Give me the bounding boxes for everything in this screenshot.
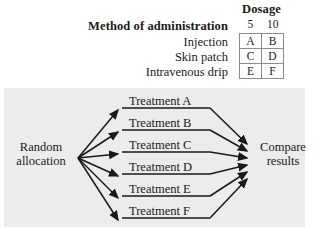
random-allocation-line1: Random xyxy=(4,140,78,154)
method-label-injection: Injection xyxy=(20,35,228,49)
compare-results-line1: Compare xyxy=(249,140,317,154)
treatment-label-e: Treatment E xyxy=(129,183,233,196)
method-factor-label: Method of administration xyxy=(20,19,228,34)
method-label-skin-patch: Skin patch xyxy=(20,50,228,64)
table-row: C D xyxy=(240,49,284,64)
treatment-label-d: Treatment D xyxy=(129,161,233,174)
treatment-label-b: Treatment B xyxy=(129,117,233,130)
compare-results-line2: results xyxy=(249,154,317,168)
cell-injection-5: A xyxy=(240,34,262,49)
factorial-design-table: Dosage 5 10 Method of administration Inj… xyxy=(0,0,320,86)
random-allocation-node: Random allocation xyxy=(4,140,78,168)
dosage-level-1: 5 xyxy=(239,18,262,30)
treatment-label-c: Treatment C xyxy=(129,139,233,152)
dosage-level-row: 5 10 xyxy=(239,18,284,30)
cell-skin-patch-5: C xyxy=(240,49,262,64)
random-allocation-line2: allocation xyxy=(4,154,78,168)
method-label-intravenous-drip: Intravenous drip xyxy=(20,65,228,79)
table-row: E F xyxy=(240,64,284,79)
treatment-label-f: Treatment F xyxy=(129,205,233,218)
treatment-cell-grid: A B C D E F xyxy=(239,33,284,79)
cell-injection-10: B xyxy=(262,34,284,49)
compare-results-node: Compare results xyxy=(249,140,317,168)
cell-intravenous-drip-5: E xyxy=(240,64,262,79)
dosage-factor-label: Dosage xyxy=(239,2,284,17)
cell-skin-patch-10: D xyxy=(262,49,284,64)
table-row: A B xyxy=(240,34,284,49)
dosage-level-2: 10 xyxy=(262,18,285,30)
figure-randomized-factorial-design: Dosage 5 10 Method of administration Inj… xyxy=(0,0,320,230)
treatment-label-a: Treatment A xyxy=(129,95,233,108)
allocation-arrows xyxy=(78,110,118,220)
cell-intravenous-drip-10: F xyxy=(262,64,284,79)
